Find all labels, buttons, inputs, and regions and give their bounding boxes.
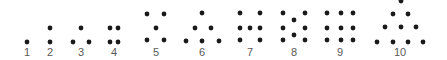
dot: [25, 40, 30, 45]
dot: [383, 25, 388, 30]
dot: [339, 11, 344, 16]
dot: [399, 0, 404, 3]
dot-group-2: [48, 26, 53, 45]
dot-pattern-diagram: 1 2 3 4 5 6 7 8 9 10: [0, 0, 447, 60]
dot: [303, 26, 308, 31]
dot: [248, 26, 253, 31]
dot-group-4: [108, 26, 121, 45]
dot: [108, 40, 113, 45]
dot: [303, 38, 308, 43]
dot: [391, 40, 396, 45]
label-9: 9: [328, 46, 352, 58]
dot: [108, 26, 113, 31]
dot: [281, 38, 286, 43]
label-6: 6: [190, 46, 214, 58]
dot: [200, 11, 205, 16]
dot: [209, 26, 214, 31]
dot: [258, 38, 263, 43]
label-2: 2: [38, 46, 62, 58]
dot: [421, 40, 426, 45]
dot-group-8: [281, 11, 308, 43]
dot: [154, 26, 159, 31]
dot: [217, 39, 222, 44]
dot: [414, 25, 419, 30]
dot-patterns-canvas: [0, 0, 447, 60]
dot: [258, 11, 263, 16]
dot: [351, 11, 356, 16]
dot: [281, 11, 286, 16]
dot: [116, 26, 121, 31]
dot: [87, 40, 92, 45]
dot: [48, 26, 53, 31]
dot: [79, 26, 84, 31]
dot: [351, 26, 356, 31]
dot: [116, 40, 121, 45]
dot: [375, 40, 380, 45]
dot: [184, 39, 189, 44]
dot: [351, 38, 356, 43]
dot-group-1: [25, 40, 30, 45]
dot: [238, 38, 243, 43]
dot: [200, 39, 205, 44]
dot-group-10: [375, 0, 426, 44]
label-5: 5: [144, 46, 168, 58]
dot: [48, 40, 53, 45]
dot: [339, 26, 344, 31]
dot: [325, 38, 330, 43]
dot: [303, 11, 308, 16]
dot-group-5: [145, 12, 167, 43]
label-1: 1: [15, 46, 39, 58]
dot: [399, 25, 404, 30]
dot: [193, 26, 198, 31]
label-8: 8: [282, 46, 306, 58]
dot: [292, 18, 297, 23]
label-3: 3: [69, 46, 93, 58]
dot: [325, 26, 330, 31]
dot: [406, 12, 411, 17]
dot-group-3: [71, 26, 92, 45]
dot-group-6: [184, 11, 222, 44]
dot: [162, 38, 167, 43]
dot-group-7: [238, 11, 263, 43]
label-4: 4: [102, 46, 126, 58]
dot: [238, 11, 243, 16]
dot: [258, 26, 263, 31]
dot-group-9: [325, 11, 356, 43]
dot: [238, 26, 243, 31]
dot: [162, 12, 167, 17]
dot: [325, 11, 330, 16]
dot: [145, 38, 150, 43]
dot: [281, 26, 286, 31]
dot: [406, 40, 411, 45]
dot: [71, 40, 76, 45]
dot: [339, 38, 344, 43]
label-7: 7: [238, 46, 262, 58]
dot: [145, 12, 150, 17]
label-10: 10: [388, 46, 412, 58]
dot: [292, 33, 297, 38]
dot: [391, 12, 396, 17]
